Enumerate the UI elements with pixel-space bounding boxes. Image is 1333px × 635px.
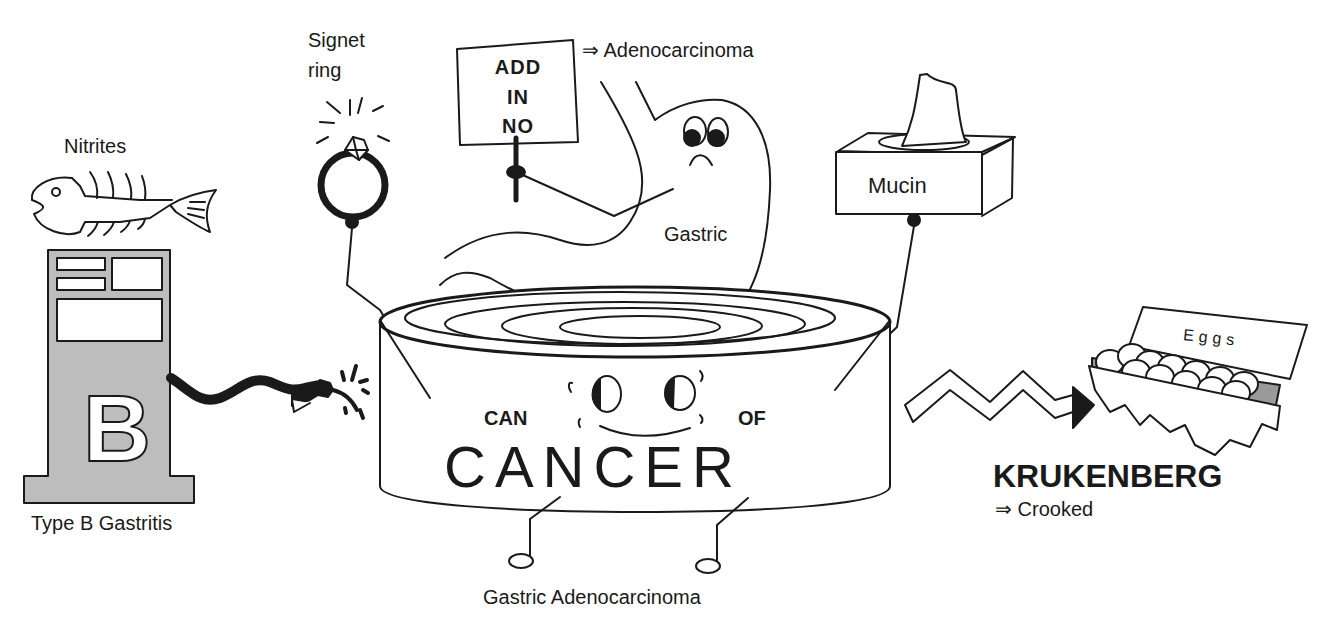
can-label-can: CAN [484,408,527,428]
zigzag-arrow-icon [905,370,1094,428]
fuel-nozzle-icon [292,366,368,418]
label-type-b-gastritis: Type B Gastritis [31,513,172,533]
sign-line-add: ADD [472,52,564,82]
label-nitrites: Nitrites [64,136,126,156]
can-icon [380,287,890,573]
fish-skeleton-icon [32,172,216,236]
label-mucin: Mucin [868,175,927,197]
can-label-cancer: CANCER [444,438,743,496]
label-krukenberg: KRUKENBERG [993,460,1222,492]
label-ring: ring [308,60,341,80]
label-crooked: ⇒ Crooked [995,499,1093,519]
label-signet: Signet [308,30,365,50]
illustration-canvas [0,0,1333,635]
label-gastric: Gastric [664,224,727,244]
caption-gastric-adenocarcinoma: Gastric Adenocarcinoma [483,587,701,607]
pump-letter-b: B [83,382,151,476]
label-adenocarcinoma: ⇒ Adenocarcinoma [582,40,754,60]
can-label-of: OF [738,408,766,428]
sign-line-in: IN [472,82,564,112]
sign-line-no: NO [472,111,564,141]
